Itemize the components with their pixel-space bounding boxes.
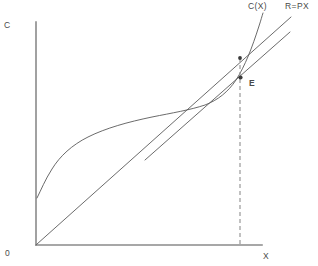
revenue-point-marker (238, 56, 242, 60)
origin-label: 0 (5, 249, 10, 258)
y-axis-label: C (4, 21, 11, 30)
diagram-canvas (0, 0, 318, 266)
revenue-line (37, 17, 292, 245)
tangent-line (145, 32, 290, 160)
cost-curve-label: C(X) (248, 2, 267, 11)
equilibrium-point-marker (238, 75, 242, 79)
revenue-line-label: R=PX (285, 2, 309, 11)
cost-curve (37, 13, 263, 198)
x-axis-label: X (263, 252, 269, 261)
cost-revenue-diagram: C X 0 C(X) R=PX E (0, 0, 318, 266)
equilibrium-label: E (249, 79, 255, 88)
